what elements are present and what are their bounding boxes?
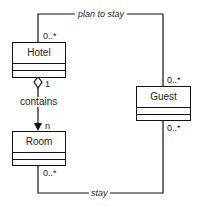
- class-name: Room: [13, 132, 65, 153]
- attributes-compartment: [13, 64, 65, 71]
- operations-compartment: [137, 115, 190, 121]
- class-guest[interactable]: Guest: [136, 86, 191, 121]
- operations-compartment: [13, 71, 65, 77]
- multiplicity-room-contains: n: [45, 121, 50, 131]
- class-name: Hotel: [13, 43, 65, 64]
- multiplicity-guest-stay: 0..*: [167, 123, 181, 133]
- association-label-stay: stay: [89, 188, 110, 198]
- class-room[interactable]: Room: [12, 131, 66, 166]
- class-hotel[interactable]: Hotel: [12, 42, 66, 78]
- multiplicity-guest-plan: 0..*: [167, 75, 181, 85]
- multiplicity-room-stay: 0..*: [43, 168, 57, 178]
- association-label-contains: contains: [20, 97, 57, 107]
- aggregation-diamond-icon: [34, 77, 42, 88]
- class-name: Guest: [137, 87, 190, 108]
- multiplicity-hotel-plan: 0..*: [43, 31, 57, 41]
- association-label-plan-to-stay: plan to stay: [75, 9, 127, 19]
- attributes-compartment: [137, 108, 190, 115]
- arrowhead-icon: [34, 123, 42, 131]
- attributes-compartment: [13, 153, 65, 160]
- operations-compartment: [13, 160, 65, 166]
- multiplicity-hotel-contains: 1: [45, 79, 50, 89]
